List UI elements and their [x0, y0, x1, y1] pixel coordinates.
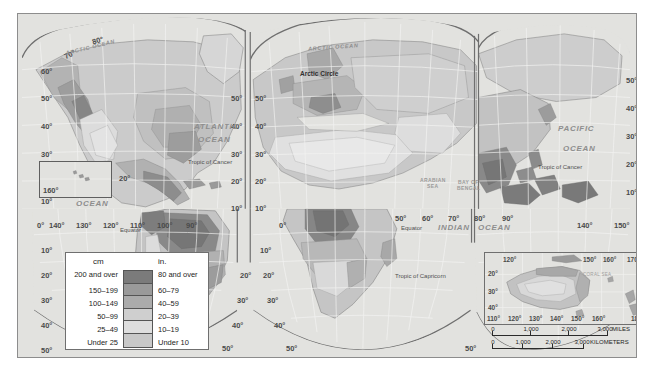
scale-num-k0: 0 [491, 339, 494, 345]
aus-lon-120: 120° [508, 315, 521, 322]
scale-num-m1: 1,000 [523, 326, 538, 332]
legend-in-3: 20–39 [158, 312, 204, 321]
scale-num-k1: 1,000 [515, 339, 530, 345]
australia-inset-map: 120° 150° 160° 170° 20° 30° 40° 20° 30° … [484, 252, 637, 325]
legend-cm-3: 50–99 [72, 312, 118, 321]
hawaii-inset: 160° [39, 161, 112, 198]
australia-inset-block: 120° 150° 160° 170° 20° 30° 40° 20° 30° … [484, 252, 637, 355]
hawaii-inset-graphic [40, 162, 111, 197]
aus-lon-140: 140° [550, 315, 563, 322]
legend-header-in: in. [158, 257, 166, 266]
aus-lon-120-top: 120° [503, 256, 516, 263]
legend-cm-4: 25–49 [72, 325, 118, 334]
aus-lon-160: 160° [592, 315, 605, 322]
legend-in-1: 60–79 [158, 286, 204, 295]
scale-line-miles [492, 335, 608, 336]
legend-in-2: 40–59 [158, 299, 204, 308]
scale-bar-kilometers: 0 1,000 2,000 3,000 KILOMETERS [490, 340, 637, 353]
legend-swatch-column [123, 270, 153, 348]
aus-lon-130: 130° [529, 315, 542, 322]
legend-in-4: 10–19 [158, 325, 204, 334]
legend-swatch-2 [124, 296, 152, 309]
legend-swatch-3 [124, 309, 152, 322]
scale-num-m0: 0 [491, 326, 494, 332]
projection-caption: MODIFIED GOODE'S HOMOLOSINE EQUAL-AREA P… [474, 357, 637, 358]
aus-lon-150: 150° [571, 315, 584, 322]
aus-lat-30: 30° [488, 288, 498, 295]
scale-unit-miles: MILES [612, 326, 630, 332]
scale-line-km [492, 348, 584, 349]
legend-in-5: Under 10 [158, 338, 204, 347]
aus-lon-180: 180° [631, 315, 637, 322]
australia-inset-graphic [485, 253, 637, 324]
aus-lon-110: 110° [487, 315, 500, 322]
scale-num-k2: 2,000 [545, 339, 560, 345]
legend-cm-0: 200 and over [72, 270, 118, 279]
legend-cm-1: 150–199 [72, 286, 118, 295]
precipitation-map-figure: 80° 70° 60° 50° 40° 30° 20° 10° 0° 10° 2… [0, 0, 653, 371]
scale-bars: 0 1,000 2,000 3,000 MILES 0 1,000 2,000 … [490, 327, 637, 353]
scale-num-m3: 3,000 [597, 326, 612, 332]
map-plate: 80° 70° 60° 50° 40° 30° 20° 10° 0° 10° 2… [17, 13, 637, 358]
precipitation-legend: cm in. 200 and over 150–199 100–149 50–9… [65, 252, 209, 350]
legend-swatch-5 [124, 334, 152, 347]
aus-lon-170-top: 170° [627, 256, 637, 263]
legend-swatch-0 [124, 271, 152, 284]
scale-num-k3: 3,000 [574, 339, 589, 345]
legend-cm-5: Under 25 [72, 338, 118, 347]
legend-cm-2: 100–149 [72, 299, 118, 308]
legend-header-cm: cm [93, 257, 104, 266]
aus-lon-150-top: 150° [583, 256, 596, 263]
scale-unit-km: KILOMETERS [590, 339, 629, 345]
legend-in-0: 80 and over [158, 270, 204, 279]
aus-lon-160-top: 160° [603, 256, 616, 263]
aus-lat-20: 20° [488, 270, 498, 277]
scale-num-m2: 2,000 [561, 326, 576, 332]
legend-swatch-1 [124, 284, 152, 297]
legend-swatch-4 [124, 321, 152, 334]
aus-sea-label-coral: CORAL SEA [583, 272, 611, 277]
aus-lat-40: 40° [488, 304, 498, 311]
